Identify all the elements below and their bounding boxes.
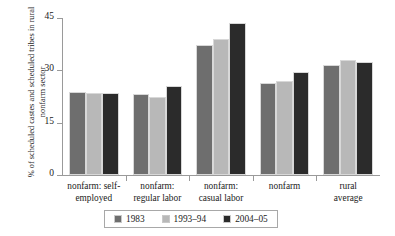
- bar: [276, 81, 293, 175]
- x-axis-line: [62, 175, 380, 176]
- x-category-label: ruralaverage: [316, 181, 380, 204]
- y-tick: 30: [57, 70, 62, 71]
- bar: [293, 72, 310, 175]
- bar-group: [133, 18, 183, 175]
- legend-label: 1983: [126, 214, 145, 224]
- legend-swatch-icon: [114, 215, 122, 223]
- x-category-label-line: nonfarm: [253, 181, 317, 193]
- bar: [86, 93, 103, 175]
- y-tick-label: 30: [45, 63, 55, 73]
- y-tick-label: 15: [45, 116, 55, 126]
- bar: [133, 94, 150, 175]
- bar: [149, 97, 166, 176]
- x-category-label-line: rural: [316, 181, 380, 193]
- x-category-label: nonfarm: self-employed: [62, 181, 126, 204]
- bar: [323, 65, 340, 175]
- legend-label: 1993–94: [174, 214, 207, 224]
- y-axis-title-container: % of scheduled castes and scheduled trib…: [0, 0, 34, 186]
- bar-group: [196, 18, 246, 175]
- bar-group: [260, 18, 310, 175]
- x-category-label-line: nonfarm:: [126, 181, 190, 193]
- bar: [213, 39, 230, 175]
- y-tick-label: 45: [45, 11, 55, 21]
- bar-group: [69, 18, 119, 175]
- x-category-label-line: regular labor: [126, 193, 190, 205]
- x-category-label: nonfarm:casual labor: [189, 181, 253, 204]
- x-category-label-line: employed: [62, 193, 126, 205]
- bar: [229, 23, 246, 175]
- plot-area: 0153045: [62, 18, 380, 176]
- y-tick: 15: [57, 123, 62, 124]
- bar: [166, 86, 183, 175]
- x-category-label-line: average: [316, 193, 380, 205]
- legend-item[interactable]: 1993–94: [162, 214, 207, 224]
- x-category-label: nonfarm:regular labor: [126, 181, 190, 204]
- bar: [340, 60, 357, 175]
- chart-legend: 19831993–942004–05: [104, 210, 278, 228]
- bar: [196, 45, 213, 175]
- bar: [102, 93, 119, 175]
- x-category-label-line: nonfarm: self-: [62, 181, 126, 193]
- x-category-label: nonfarm: [253, 181, 317, 193]
- bar: [356, 62, 373, 175]
- y-tick-label: 0: [49, 168, 54, 178]
- bar: [69, 92, 86, 175]
- legend-swatch-icon: [162, 215, 170, 223]
- y-tick: 45: [57, 18, 62, 19]
- bar-group: [323, 18, 373, 175]
- x-category-label-line: casual labor: [189, 193, 253, 205]
- chart-figure: % of scheduled castes and scheduled trib…: [0, 0, 395, 236]
- legend-swatch-icon: [223, 215, 231, 223]
- legend-label: 2004–05: [235, 214, 268, 224]
- legend-item[interactable]: 2004–05: [223, 214, 268, 224]
- y-axis-title: % of scheduled castes and scheduled trib…: [26, 2, 48, 182]
- legend-item[interactable]: 1983: [114, 214, 145, 224]
- bar: [260, 83, 277, 175]
- y-tick: 0: [57, 175, 62, 176]
- x-category-label-line: nonfarm:: [189, 181, 253, 193]
- y-axis-line: [62, 18, 63, 176]
